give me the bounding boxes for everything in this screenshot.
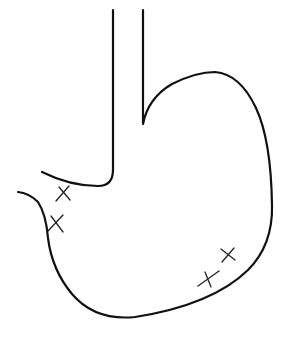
marker-cross-2 bbox=[48, 215, 63, 232]
marker-cross-4 bbox=[198, 271, 219, 287]
esophagus-right-wall-and-greater-curvature bbox=[18, 10, 272, 318]
marker-cross-3 bbox=[221, 248, 235, 262]
marker-cross-1 bbox=[56, 186, 70, 201]
stomach-diagram bbox=[0, 0, 287, 340]
esophagus-left-wall bbox=[42, 10, 113, 186]
